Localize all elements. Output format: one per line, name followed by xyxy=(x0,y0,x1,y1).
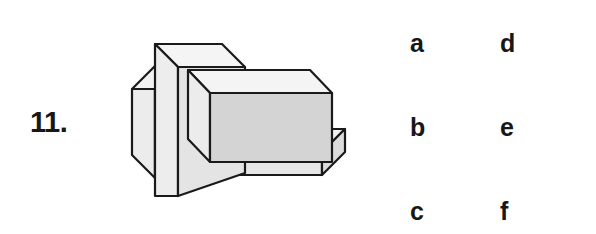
answer-choices: a d b e c f xyxy=(398,24,548,218)
choice-a[interactable]: a xyxy=(410,28,424,58)
choice-row: a d xyxy=(398,28,548,62)
choice-c[interactable]: c xyxy=(410,196,424,226)
choice-row: b e xyxy=(398,112,548,146)
choice-f[interactable]: f xyxy=(500,196,508,226)
main-box-top-face xyxy=(188,70,332,93)
choice-b[interactable]: b xyxy=(410,112,425,142)
question-block: 11. a d xyxy=(0,0,596,234)
main-horizontal-box xyxy=(188,70,332,162)
choice-row: c f xyxy=(398,196,548,230)
left-fin-front-face xyxy=(132,89,155,178)
choice-d[interactable]: d xyxy=(500,28,515,58)
main-box-front-face xyxy=(210,93,332,162)
choice-e[interactable]: e xyxy=(500,112,514,142)
vertical-slab-front-face xyxy=(155,44,178,196)
